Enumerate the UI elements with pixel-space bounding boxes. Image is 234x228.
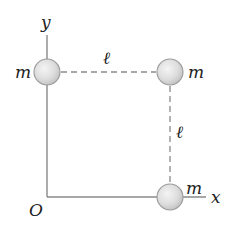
mass-top-left-sphere — [34, 59, 60, 85]
mass-bottom-right-label: m — [186, 178, 202, 198]
y-axis-label: y — [40, 12, 51, 32]
square-masses-diagram: y x O m m m ℓ ℓ — [0, 0, 234, 228]
origin-label: O — [29, 200, 43, 220]
mass-bottom-right-sphere — [157, 184, 183, 210]
mass-top-left-label: m — [15, 62, 31, 82]
mass-top-right-label: m — [188, 62, 204, 82]
mass-top-right-sphere — [157, 59, 183, 85]
top-side-length-label: ℓ — [103, 48, 110, 68]
right-side-length-label: ℓ — [176, 122, 183, 142]
x-axis-label: x — [211, 187, 221, 207]
